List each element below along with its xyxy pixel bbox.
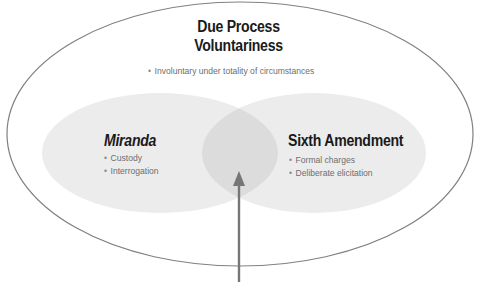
miranda-bullet-list: Custody Interrogation (104, 151, 159, 177)
outer-title-line2: Voluntariness (29, 37, 449, 55)
outer-bullet: Involuntary under totality of circumstan… (148, 64, 314, 77)
sixth-amendment-bullet: Deliberate elicitation (289, 166, 373, 179)
outer-title-line1: Due Process (29, 18, 449, 36)
sixth-amendment-bullet-list: Formal charges Deliberate elicitation (289, 153, 373, 179)
sixth-amendment-title: Sixth Amendment (288, 132, 403, 150)
miranda-bullet: Interrogation (104, 164, 159, 177)
miranda-bullet: Custody (104, 151, 159, 164)
miranda-title: Miranda (104, 132, 156, 150)
sixth-amendment-bullet: Formal charges (289, 153, 373, 166)
outer-bullet-list: Involuntary under totality of circumstan… (148, 64, 314, 77)
